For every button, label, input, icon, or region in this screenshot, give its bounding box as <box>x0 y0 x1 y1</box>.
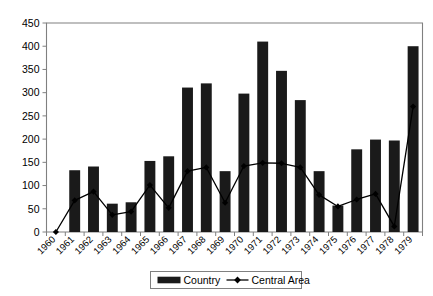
legend-label-country: Country <box>184 274 222 286</box>
bar <box>238 94 249 232</box>
bar <box>408 46 419 232</box>
bar <box>370 140 381 232</box>
y-axis-tick-label: 350 <box>22 63 40 75</box>
bar <box>182 88 193 232</box>
bar <box>276 71 287 232</box>
y-axis-tick-label: 50 <box>28 203 40 215</box>
y-axis-tick-label: 250 <box>22 110 40 122</box>
bar <box>88 167 99 232</box>
bar <box>314 171 325 232</box>
chart-legend: CountryCentral Area <box>151 272 311 289</box>
y-axis-tick-label: 300 <box>22 86 40 98</box>
legend-swatch-country <box>158 277 181 284</box>
bar-line-chart: 050100150200250300350400450 196019611962… <box>0 0 433 296</box>
chart-container: 050100150200250300350400450 196019611962… <box>0 0 433 296</box>
y-axis-tick-label: 200 <box>22 133 40 145</box>
bar <box>351 149 362 232</box>
y-axis-tick-label: 0 <box>34 226 40 238</box>
legend-label-central-area: Central Area <box>252 274 311 286</box>
bar <box>163 156 174 232</box>
bar <box>144 161 155 232</box>
y-axis-tick-label: 100 <box>22 179 40 191</box>
bar <box>201 83 212 232</box>
y-axis-tick-label: 400 <box>22 40 40 52</box>
bar <box>257 42 268 232</box>
y-axis-tick-label: 450 <box>22 17 40 29</box>
y-axis-tick-label: 150 <box>22 156 40 168</box>
bar <box>389 141 400 233</box>
